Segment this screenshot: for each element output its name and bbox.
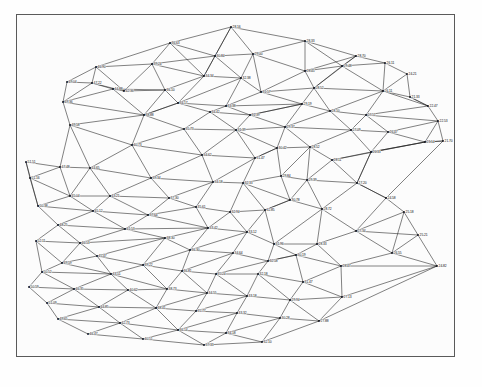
mesh-node-label: 26.55	[394, 251, 402, 255]
mesh-node-label: 30.78	[292, 198, 300, 202]
mesh-edge	[226, 104, 302, 106]
mesh-node-label: 36.10	[167, 88, 175, 92]
mesh-edge	[110, 196, 148, 215]
mesh-edge	[253, 54, 305, 71]
mesh-node-label: 39.34	[153, 176, 161, 180]
mesh-edge	[438, 121, 443, 141]
mesh-node-label: 36.30	[192, 248, 200, 252]
mesh-edge	[125, 228, 208, 229]
mesh-node-label: 36.14	[180, 328, 188, 332]
mesh-node-label: 28.52	[312, 145, 320, 149]
mesh-edge	[63, 83, 92, 102]
mesh-edge	[366, 115, 438, 121]
mesh-edge	[196, 182, 213, 207]
mesh-edge	[42, 272, 111, 274]
mesh-edge	[231, 27, 253, 54]
mesh-edge	[63, 82, 67, 102]
mesh-edge	[247, 210, 265, 232]
mesh-node-label: 29.19	[304, 102, 312, 106]
mesh-node-label: 45.47	[99, 254, 107, 258]
mesh-node-label: 41.53	[127, 227, 135, 231]
mesh-node-label: 35.61	[198, 205, 206, 209]
mesh-edge	[143, 265, 167, 289]
mesh-edge	[330, 111, 351, 130]
mesh-node-label: 31.47	[257, 156, 265, 160]
mesh-edge	[356, 212, 404, 231]
mesh-edge	[296, 255, 303, 282]
mesh-edge	[60, 125, 70, 167]
mesh-node-label: 28.72	[324, 207, 332, 211]
mesh-node-label: 42.36	[126, 89, 134, 93]
mesh-node-label: 34.18	[215, 180, 223, 184]
mesh-node-label: 28.47	[343, 264, 351, 268]
mesh-node-label: 37.33	[206, 343, 214, 347]
mesh-node-label: 33.38	[228, 104, 236, 108]
mesh-edge	[213, 158, 255, 182]
mesh-node-label: 51.51	[28, 160, 36, 164]
mesh-node-label: 35.73	[186, 127, 194, 131]
mesh-edge	[281, 147, 310, 176]
mesh-edge	[341, 266, 342, 297]
mesh-edge	[319, 266, 437, 321]
mesh-node-label: 29.00	[255, 52, 263, 56]
mesh-edge	[281, 176, 290, 200]
mesh-node-label: 34.18	[228, 331, 236, 335]
mesh-node-label: 30.42	[279, 146, 287, 150]
mesh-node-label: 39.24	[154, 62, 162, 66]
mesh-node-label: 26.11	[387, 61, 395, 65]
mesh-edge	[253, 54, 261, 92]
mesh-edge	[277, 148, 281, 176]
mesh-edge	[357, 183, 386, 198]
mesh-edge	[305, 71, 314, 88]
mesh-edge	[230, 183, 243, 212]
mesh-node-label: 31.57	[263, 90, 271, 94]
mesh-node-label: 29.48	[344, 64, 352, 68]
mesh-node-label: 31.47	[305, 280, 313, 284]
mesh-node-label: 34.17	[180, 101, 188, 105]
mesh-edge	[184, 129, 202, 155]
mesh-edge	[178, 76, 204, 103]
mesh-edge	[351, 130, 371, 152]
mesh-node-label: 46.47	[90, 332, 98, 336]
mesh-node-label: 51.16	[32, 176, 40, 180]
mesh-edge	[132, 115, 144, 145]
mesh-node-label: 33.12	[249, 230, 257, 234]
mesh-edge	[226, 78, 241, 106]
mesh-edge	[74, 289, 99, 307]
mesh-node-label: 50.52	[44, 270, 52, 274]
mesh-node-label: 47.48	[62, 165, 70, 169]
mesh-node-label: 36.63	[172, 41, 180, 45]
mesh-node-label: 43.51	[113, 272, 121, 276]
mesh-node-label: 46.90	[98, 65, 106, 69]
mesh-edge	[230, 212, 247, 232]
mesh-edge	[151, 155, 202, 178]
mesh-node-label: 27.51	[368, 113, 376, 117]
mesh-node-label: 50.59	[31, 285, 39, 289]
mesh-edge	[285, 127, 310, 147]
mesh-node-label: 33.32	[239, 311, 247, 315]
mesh-edge	[247, 274, 258, 296]
mesh-node-label: 49.65	[60, 317, 68, 321]
mesh-node-label: 27.09	[353, 128, 361, 132]
mesh-edge	[307, 147, 310, 180]
mesh-node-label: 27.88	[321, 319, 329, 323]
mesh-node-label: 34.42	[212, 110, 220, 114]
mesh-graph-canvas: 28.1636.6328.3346.9030.8429.0028.7026.11…	[0, 0, 482, 387]
mesh-node-label: 32.33	[245, 181, 253, 185]
mesh-node-label: 45.04	[72, 194, 80, 198]
mesh-edge	[93, 211, 125, 229]
mesh-node-label: 22.53	[440, 119, 448, 123]
mesh-node-label: 30.84	[217, 54, 225, 58]
mesh-edge	[307, 180, 322, 209]
mesh-node-label: 36.81	[184, 269, 192, 273]
mesh-edge	[342, 66, 383, 91]
mesh-edge	[314, 88, 383, 91]
mesh-node-label: 47.22	[94, 81, 102, 85]
mesh-node-label: 32.58	[270, 259, 278, 263]
mesh-node-label: 25.18	[406, 210, 414, 214]
mesh-node-label: 44.65	[92, 166, 100, 170]
mesh-edge	[231, 27, 305, 41]
mesh-edge	[38, 206, 58, 225]
mesh-node-label: 49.58	[72, 123, 80, 127]
mesh-edge	[143, 238, 165, 265]
